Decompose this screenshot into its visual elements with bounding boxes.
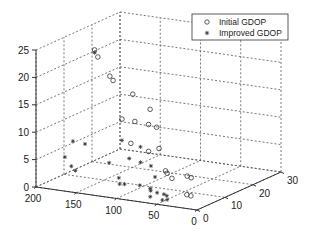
improved-gdop-point [83, 142, 87, 146]
legend-label-initial: Initial GDOP [219, 17, 267, 27]
improved-gdop-point [155, 191, 159, 195]
x-tick-label: 50 [148, 210, 160, 221]
z-tick-label: 10 [18, 127, 30, 138]
improved-gdop-point [160, 198, 164, 202]
grid-line [36, 94, 120, 132]
grid-line [120, 122, 281, 145]
grid-line [64, 174, 225, 197]
improved-gdop-point [148, 195, 152, 199]
improved-gdop-point [120, 138, 124, 142]
grid-line [36, 67, 120, 105]
improved-gdop-point [117, 176, 121, 180]
y-tick-mark [197, 210, 200, 212]
initial-gdop-point [133, 119, 138, 124]
tick-labels: 05101520250501001502000102030 [18, 45, 299, 228]
x-tick-label: 150 [65, 199, 82, 210]
legend-label-improved: Improved GDOP [219, 28, 282, 38]
initial-gdop-point [154, 125, 159, 130]
z-tick-label: 0 [23, 182, 29, 193]
initial-gdop-point [157, 146, 162, 151]
z-tick-label: 25 [18, 45, 30, 56]
improved-gdop-point [149, 189, 153, 193]
y-tick-mark [281, 172, 284, 174]
grid-line [36, 39, 120, 77]
improved-gdop-point [153, 175, 157, 179]
grid-line [36, 12, 120, 50]
improved-gdop-point [107, 161, 111, 165]
improved-gdop-point [71, 139, 75, 143]
improved-gdop-point [69, 164, 73, 168]
grid-lines [36, 12, 281, 210]
improved-gdop-point [63, 155, 67, 159]
improved-gdop-point [165, 194, 169, 198]
y-tick-label: 20 [259, 188, 271, 199]
initial-gdop-point [96, 55, 101, 60]
improved-gdop-point [165, 198, 169, 202]
grid-line [36, 149, 120, 187]
initial-gdop-point [111, 78, 116, 83]
x-tick-label: 0 [191, 216, 197, 227]
z-tick-label: 15 [18, 99, 30, 110]
grid-line [36, 122, 120, 160]
improved-gdop-point [127, 156, 131, 160]
axes [32, 50, 284, 212]
grid-line [120, 67, 281, 90]
grid-line [76, 155, 160, 193]
y-tick-mark [225, 197, 228, 199]
improved-gdop-point [139, 160, 143, 164]
improved-gdop-point [149, 164, 153, 168]
improved-gdop-point [138, 183, 142, 187]
y-tick-mark [253, 185, 256, 187]
improved-gdop-point [138, 145, 142, 149]
z-tick-label: 5 [23, 154, 29, 165]
initial-gdop-point [129, 141, 134, 146]
y-tick-label: 0 [203, 213, 209, 224]
y-tick-label: 30 [287, 175, 299, 186]
initial-gdop-point [170, 176, 175, 181]
improved-gdop-point [122, 182, 126, 186]
y-tick-label: 10 [231, 200, 243, 211]
improved-gdop-point [73, 169, 77, 173]
legend: Initial GDOP Improved GDOP [192, 14, 288, 40]
initial-gdop-point [146, 122, 151, 127]
data-points [63, 48, 194, 202]
x-tick-label: 100 [105, 205, 122, 216]
initial-gdop-point [108, 74, 113, 79]
z-tick-label: 20 [18, 72, 30, 83]
initial-gdop-point [148, 107, 153, 112]
scatter3d-chart: 05101520250501001502000102030 Initial GD… [0, 0, 309, 231]
x-tick-label: 200 [25, 193, 42, 204]
improved-gdop-point [118, 182, 122, 186]
grid-line [92, 162, 253, 185]
grid-line [120, 94, 281, 117]
